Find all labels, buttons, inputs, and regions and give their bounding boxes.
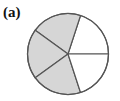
fraction-circle-diagram <box>0 0 120 101</box>
